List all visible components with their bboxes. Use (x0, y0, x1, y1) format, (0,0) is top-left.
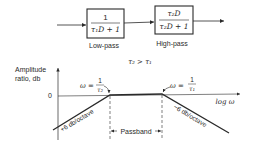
corner-frequency-low: ω = 1 τ₂ (80, 77, 109, 94)
corner-frequency-high: ω = 1 τ₁ (163, 76, 196, 93)
svg-text:τ₁: τ₁ (189, 85, 195, 93)
high-pass-block: τ₂D τ₂D + 1 (155, 6, 193, 34)
low-pass-denominator: τ₁D + 1 (91, 25, 120, 34)
low-pass-label: Low-pass (89, 42, 119, 50)
bandpass-diagram: 1 τ₁D + 1 τ₂D τ₂D + 1 Low-pass High-pass… (0, 0, 256, 154)
x-axis-label: log ω (216, 98, 235, 106)
svg-text:1: 1 (190, 76, 194, 83)
high-pass-label: High-pass (156, 40, 188, 48)
svg-text:1: 1 (98, 77, 102, 84)
passband-label: Passband (120, 128, 151, 135)
time-constant-condition: τ₂ > τ₁ (128, 58, 152, 66)
connector-arrow (124, 22, 154, 23)
low-pass-numerator: 1 (103, 13, 108, 22)
y-axis-label-line1: Amplitude (15, 66, 46, 74)
zero-db-label: 0 (48, 92, 52, 99)
high-pass-denominator: τ₂D + 1 (160, 22, 189, 31)
high-pass-numerator: τ₂D (167, 9, 180, 18)
svg-text:ω =: ω = (170, 82, 184, 90)
svg-text:ω =: ω = (80, 82, 94, 90)
rising-slope-label: +6 db/octave (59, 107, 95, 132)
svg-text:τ₂: τ₂ (97, 86, 104, 94)
y-axis-label-line2: ratio, db (15, 75, 40, 82)
falling-slope-label: −6 db/octave (172, 103, 208, 128)
low-pass-block: 1 τ₁D + 1 (87, 9, 124, 38)
